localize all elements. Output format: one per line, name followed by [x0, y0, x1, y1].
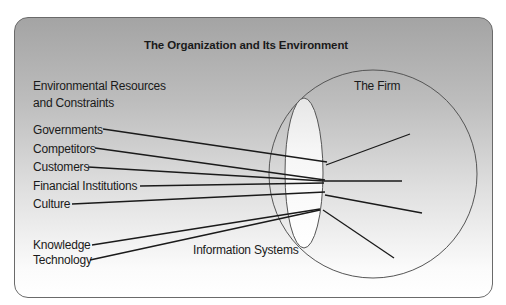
factor-label-culture: Culture [33, 197, 70, 211]
information-systems-ellipse [285, 98, 323, 248]
firm-radiating-lines [323, 134, 422, 258]
knowledge-line [92, 209, 320, 245]
information-systems-label: Information Systems [193, 243, 299, 257]
environment-heading-line2: and Constraints [33, 96, 114, 110]
factor-label-financial-institutions: Financial Institutions [33, 179, 137, 193]
factor-label-knowledge: Knowledge [33, 238, 91, 252]
environment-heading-line1: Environmental Resources [33, 79, 166, 93]
diagram-title: The Organization and Its Environment [144, 38, 348, 52]
factor-label-governments: Governments [33, 123, 103, 137]
firm-line-1 [326, 134, 410, 165]
firm-line-4 [323, 210, 394, 258]
diagram-canvas: The Organization and Its Environment Env… [0, 0, 506, 305]
factor-label-technology: Technology [33, 253, 92, 267]
factor-label-competitors: Competitors [33, 142, 96, 156]
firm-line-3 [325, 195, 422, 213]
firm-label: The Firm [354, 79, 400, 93]
factor-label-customers: Customers [33, 160, 89, 174]
